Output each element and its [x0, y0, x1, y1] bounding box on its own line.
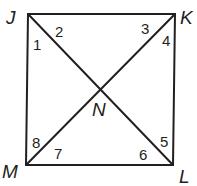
segment-mj: [26, 14, 28, 165]
angle-label-5: 5: [160, 133, 168, 150]
vertex-label-k: K: [180, 7, 194, 28]
angle-label-2: 2: [55, 23, 63, 40]
segment-kl: [173, 14, 175, 165]
diagonal-km: [26, 14, 175, 165]
vertex-label-m: M: [2, 161, 18, 182]
intersection-label-n: N: [92, 99, 106, 120]
angle-label-7: 7: [54, 145, 62, 162]
vertex-label-j: J: [5, 7, 16, 28]
angle-label-4: 4: [162, 32, 170, 49]
angle-label-8: 8: [32, 134, 40, 151]
angle-label-1: 1: [33, 36, 41, 53]
angle-label-6: 6: [139, 146, 147, 163]
vertex-label-l: L: [179, 166, 190, 186]
angle-label-3: 3: [141, 20, 149, 37]
square-diagonals-diagram: J K L M N 1 2 3 4 5 6 7 8: [0, 0, 197, 186]
